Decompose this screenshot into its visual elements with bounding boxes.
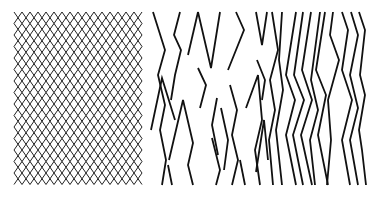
lattice-line — [126, 12, 134, 185]
zigzag-stroke — [171, 12, 181, 100]
lattice-line — [118, 12, 126, 185]
sparse-zigzag-panel — [151, 12, 268, 185]
zigzag-stroke — [359, 12, 366, 185]
lattice-line — [86, 12, 94, 185]
zigzag-stroke — [316, 12, 328, 185]
zigzag-stroke — [256, 120, 268, 172]
lattice-line — [110, 12, 118, 185]
zigzag-stroke — [151, 78, 175, 130]
zigzag-stroke — [342, 12, 352, 185]
zigzag-stroke — [198, 12, 220, 68]
dense-lattice-panel — [14, 12, 142, 185]
zigzag-stroke — [256, 12, 267, 45]
parallel-zigzag-panel — [269, 12, 366, 185]
zigzag-stroke — [188, 12, 198, 55]
lattice-line — [22, 12, 30, 185]
lattice-line — [38, 12, 46, 185]
lattice-line — [46, 12, 54, 185]
zigzag-stroke — [269, 12, 278, 185]
zigzag-stroke — [221, 108, 228, 170]
lattice-line — [30, 12, 38, 185]
zigzag-stroke — [230, 85, 238, 185]
lattice-line — [54, 12, 62, 185]
zigzag-stroke — [198, 68, 206, 108]
zigzag-stroke — [276, 12, 283, 185]
zigzag-stroke — [246, 75, 262, 185]
zigzag-stroke — [228, 12, 244, 70]
lattice-line — [94, 12, 102, 185]
zigzag-stroke — [168, 165, 172, 185]
texture-stimulus-figure — [0, 0, 378, 200]
lattice-line — [102, 12, 110, 185]
lattice-line — [62, 12, 70, 185]
zigzag-stroke — [327, 12, 339, 185]
lattice-line — [70, 12, 78, 185]
zigzag-stroke — [286, 12, 296, 185]
lattice-line — [78, 12, 86, 185]
zigzag-stroke — [153, 12, 166, 185]
lattice-line — [134, 12, 142, 185]
zigzag-stroke — [240, 160, 245, 185]
lattice-line — [14, 12, 22, 185]
